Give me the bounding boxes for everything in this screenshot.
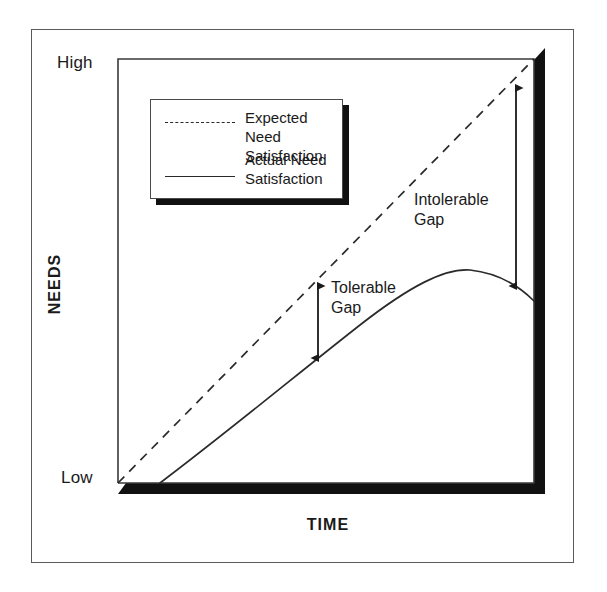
annotation-intolerable-gap: Intolerable Gap bbox=[414, 190, 489, 230]
x-axis-title: TIME bbox=[228, 516, 428, 534]
chart-canvas bbox=[0, 0, 607, 592]
legend-item-label: Actual Need Satisfaction bbox=[245, 150, 327, 188]
y-axis-tick-high: High bbox=[57, 53, 93, 73]
legend-dashed-line-icon bbox=[165, 117, 235, 129]
annotation-tolerable-gap: Tolerable Gap bbox=[331, 278, 396, 318]
y-axis-title: NEEDS bbox=[46, 224, 64, 344]
legend-solid-line-icon bbox=[165, 171, 235, 183]
figure-root: High Low NEEDS TIME Expected Need Satisf… bbox=[0, 0, 607, 592]
chart-legend: Expected Need Satisfaction Actual Need S… bbox=[150, 99, 343, 199]
legend-item-expected-need-satisfaction: Expected Need Satisfaction bbox=[151, 108, 342, 152]
legend-item-actual-need-satisfaction: Actual Need Satisfaction bbox=[151, 150, 342, 194]
y-axis-tick-low: Low bbox=[61, 468, 93, 488]
